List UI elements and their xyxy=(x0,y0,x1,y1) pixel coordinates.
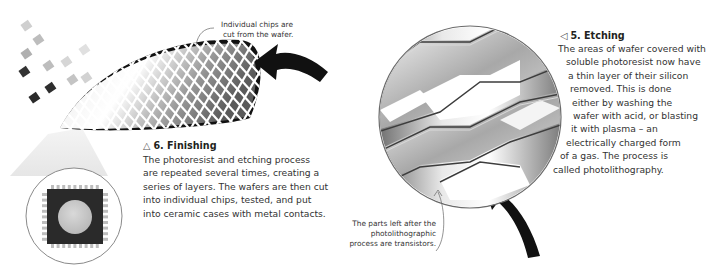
magnification-cone xyxy=(10,128,108,176)
chips-annotation: Individual chips are cut from the wafer. xyxy=(221,20,293,40)
arrow-to-wafer xyxy=(254,44,328,82)
wafer-grid-line xyxy=(0,20,26,140)
step5-line: The areas of wafer covered with xyxy=(558,42,706,55)
step5-line: electrically charged form xyxy=(566,136,706,149)
chip-die xyxy=(58,200,92,234)
finished-chip-view xyxy=(26,168,122,264)
wafer-grid-line xyxy=(0,20,32,140)
step5-line: it with plasma – an xyxy=(571,122,706,135)
step5-line: wafer with acid, or blasting xyxy=(573,109,706,122)
step6-line: into individual chips, tested, and put xyxy=(143,193,328,206)
wafer-grid-line xyxy=(0,20,8,140)
step6-description: The photoresist and etching process are … xyxy=(143,153,328,220)
up-triangle-icon: △ xyxy=(143,140,150,151)
transistors-annotation: The parts left after the photolithograph… xyxy=(336,219,436,249)
step6-heading: △6. Finishing xyxy=(143,140,217,151)
wafer-grid-line xyxy=(282,20,392,140)
transistors-annotation-line: photolithographic xyxy=(336,229,436,239)
step5-line: called photolithography. xyxy=(553,163,706,176)
wafer xyxy=(0,20,392,140)
step5-line: either by washing the xyxy=(572,96,706,109)
step6-title: 6. Finishing xyxy=(153,140,216,151)
wafer-grid-line xyxy=(0,20,62,140)
wafer-grid-line xyxy=(0,20,56,140)
scattered-chips xyxy=(18,20,92,104)
step5-line: of a gas. The process is xyxy=(560,149,706,162)
left-triangle-icon: ◁ xyxy=(560,30,567,41)
step5-description: The areas of wafer covered with soluble … xyxy=(558,42,706,176)
step5-line: a thin layer of their silicon xyxy=(568,69,706,82)
step6-line: into ceramic cases with metal contacts. xyxy=(143,207,328,220)
wafer-grid-line xyxy=(0,20,14,140)
transistors-annotation-line: process are transistors. xyxy=(336,239,436,249)
step5-line: removed. This is done xyxy=(570,82,706,95)
transistors-annotation-line: The parts left after the xyxy=(336,219,436,229)
wafer-grid-line xyxy=(292,20,362,140)
chips-annotation-line: cut from the wafer. xyxy=(223,30,293,40)
step5-title: 5. Etching xyxy=(570,30,624,41)
step5-line: soluble photoresist now have xyxy=(566,55,706,68)
wafer-grid-line xyxy=(0,20,20,140)
wafer-grid-line xyxy=(0,20,38,140)
wafer-grid-line xyxy=(0,20,2,140)
step6-line: series of layers. The wafers are then cu… xyxy=(143,180,328,193)
step5-heading: ◁5. Etching xyxy=(560,30,625,41)
step6-line: The photoresist and etching process xyxy=(143,153,328,166)
chips-annotation-line: Individual chips are xyxy=(221,20,293,30)
step6-line: are repeated several times, creating a xyxy=(143,166,328,179)
etching-magnified-view xyxy=(378,20,570,209)
